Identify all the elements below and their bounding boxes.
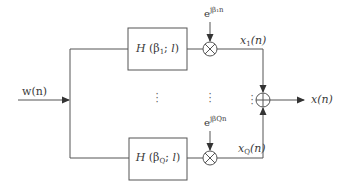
modulator-q-exponent: jβQn — [210, 115, 226, 123]
modulator-1-exponent: jβ₁n — [210, 6, 224, 14]
branch-1-output-suffix: (n) — [251, 34, 267, 47]
filter-1-subscript: 1 — [160, 48, 164, 56]
modulator-label-1: ejβ₁n — [204, 6, 223, 19]
block-diagram: w(n) H H (β(β1; l) H H (β(βQ; l) ejβ₁n e… — [0, 0, 348, 184]
modulator-label-q: ejβQn — [204, 115, 226, 128]
ellipsis-modulators: ··· — [208, 92, 212, 104]
filter-label-1: H H (β(β1; l) — [128, 42, 187, 56]
branch-output-label-q: xQ(n) — [238, 142, 266, 156]
input-label: w(n) — [22, 85, 47, 98]
ellipsis-summer: ··· — [250, 94, 254, 106]
filter-label-q: H H (β(βQ; l) — [129, 151, 187, 165]
branch-q-output-suffix: (n) — [250, 142, 266, 155]
branch-output-label-1: x1(n) — [240, 34, 266, 48]
ellipsis-filters: ··· — [155, 92, 159, 104]
output-label: x(n) — [311, 93, 333, 106]
filter-q-subscript: Q — [159, 157, 165, 165]
